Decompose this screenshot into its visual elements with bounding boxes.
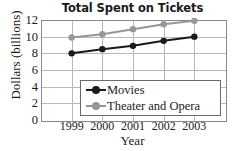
y-tick-label: 6 bbox=[18, 64, 38, 77]
x-tick-label: 2003 bbox=[177, 120, 211, 132]
x-tick-label: 1999 bbox=[55, 120, 89, 132]
y-axis-ticks: 121086420 bbox=[14, 0, 38, 151]
legend-label: Movies bbox=[107, 83, 145, 97]
legend-item: Theater and Opera bbox=[85, 98, 220, 114]
y-tick-label: 12 bbox=[18, 14, 38, 27]
y-tick-label: 4 bbox=[18, 81, 38, 94]
chart-title: Total Spent on Tickets bbox=[40, 1, 225, 15]
legend-marker-icon bbox=[85, 83, 107, 97]
gridline-vertical bbox=[72, 21, 73, 121]
legend-marker-icon bbox=[85, 99, 107, 113]
line-chart: Total Spent on Tickets Dollars (billions… bbox=[0, 0, 235, 151]
chart-legend: MoviesTheater and Opera bbox=[80, 80, 221, 116]
y-tick-label: 0 bbox=[18, 114, 38, 127]
y-tick-label: 10 bbox=[18, 31, 38, 44]
gridline-horizontal bbox=[42, 37, 226, 38]
legend-item: Movies bbox=[85, 82, 220, 98]
legend-label: Theater and Opera bbox=[107, 99, 200, 113]
x-axis-label: Year bbox=[40, 133, 225, 149]
x-tick-label: 2002 bbox=[147, 120, 181, 132]
y-tick-label: 8 bbox=[18, 47, 38, 60]
gridline-horizontal bbox=[42, 53, 226, 54]
x-tick-label: 2001 bbox=[116, 120, 150, 132]
y-tick-label: 2 bbox=[18, 97, 38, 110]
gridline-horizontal bbox=[42, 70, 226, 71]
x-tick-label: 2000 bbox=[85, 120, 119, 132]
